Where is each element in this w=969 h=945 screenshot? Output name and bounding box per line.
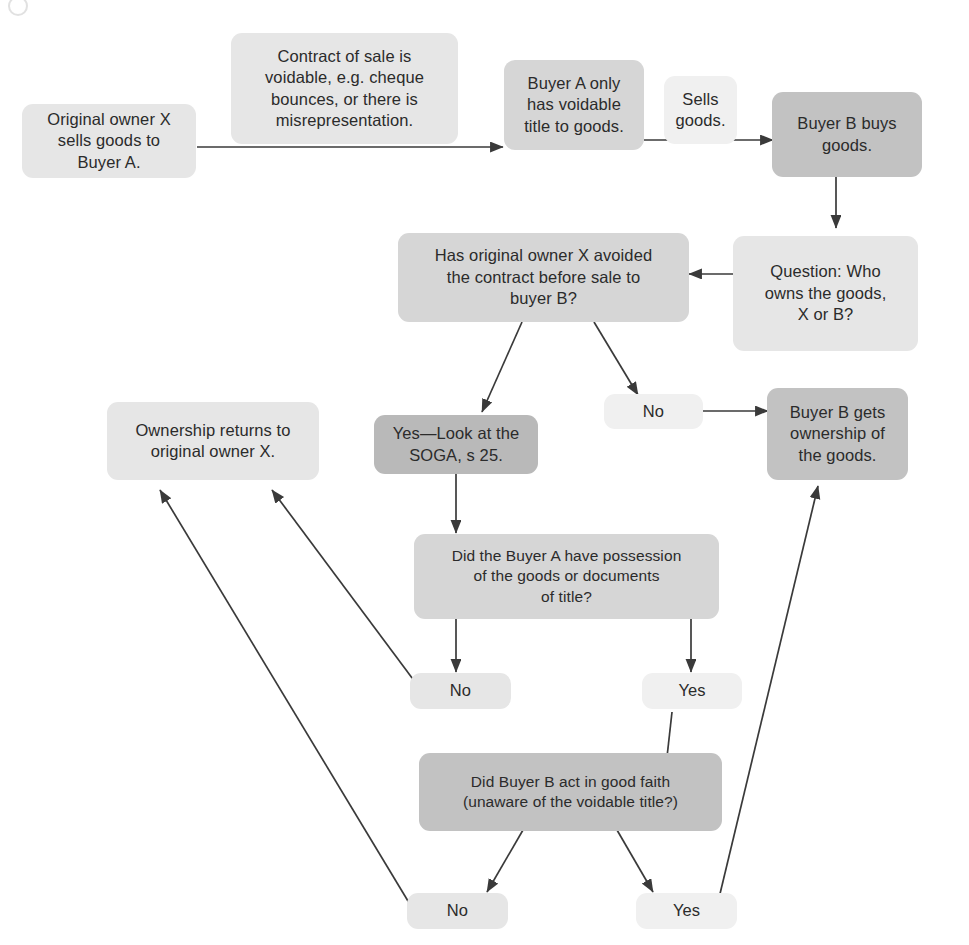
- edge-n16-n11: [160, 490, 411, 906]
- flowchart-canvas: Original owner X sells goods to Buyer A.…: [0, 0, 969, 945]
- node-question-who-owns[interactable]: Question: Who owns the goods, X or B?: [733, 236, 918, 351]
- edge-n15-n17: [617, 830, 653, 892]
- node-yes-look-soga[interactable]: Yes—Look at the SOGA, s 25.: [374, 415, 538, 474]
- node-contract-voidable[interactable]: Contract of sale is voidable, e.g. chequ…: [231, 33, 458, 144]
- node-yes-possession[interactable]: Yes: [642, 673, 742, 709]
- node-no-good-faith[interactable]: No: [407, 893, 508, 929]
- node-original-owner-sells[interactable]: Original owner X sells goods to Buyer A.: [22, 104, 196, 178]
- scan-artifact-icon: [8, 0, 28, 16]
- edge-n7-n9: [594, 322, 638, 395]
- edge-n7-n8: [482, 322, 522, 412]
- node-buyer-b-buys-goods[interactable]: Buyer B buys goods.: [772, 92, 922, 177]
- node-buyer-a-voidable-title[interactable]: Buyer A only has voidable title to goods…: [504, 60, 644, 150]
- node-buyer-b-gets-ownership[interactable]: Buyer B gets ownership of the goods.: [767, 388, 908, 480]
- node-sells-goods[interactable]: Sells goods.: [664, 76, 737, 144]
- edge-n15-n16: [487, 830, 523, 892]
- node-yes-good-faith[interactable]: Yes: [636, 893, 737, 929]
- edge-n13-n11: [272, 490, 424, 694]
- node-did-buyer-a-have-possession[interactable]: Did the Buyer A have possession of the g…: [414, 534, 719, 619]
- node-ownership-returns-to-x[interactable]: Ownership returns to original owner X.: [107, 402, 319, 480]
- edge-n14-n15: [667, 712, 672, 757]
- node-did-buyer-b-good-faith[interactable]: Did Buyer B act in good faith (unaware o…: [419, 753, 722, 831]
- node-no-possession[interactable]: No: [410, 673, 511, 709]
- node-no-avoided[interactable]: No: [604, 394, 703, 429]
- node-has-owner-avoided-contract[interactable]: Has original owner X avoided the contrac…: [398, 233, 689, 322]
